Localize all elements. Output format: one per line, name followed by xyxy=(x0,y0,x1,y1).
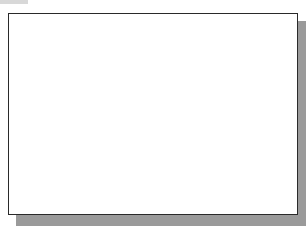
construction-drawing xyxy=(0,0,308,233)
